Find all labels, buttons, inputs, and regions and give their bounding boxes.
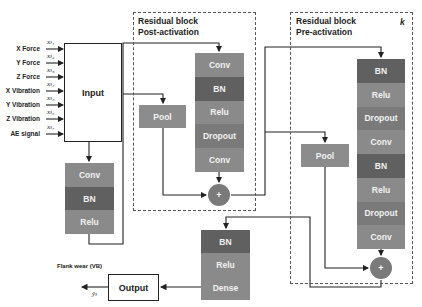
layer-conv: Conv bbox=[195, 148, 244, 172]
signal-label: X Force bbox=[0, 45, 40, 52]
signal-symbol: xₜ₄ bbox=[47, 80, 55, 88]
signal-symbol: xₜ₃ bbox=[47, 66, 55, 74]
signal-symbol: xₜ₅ bbox=[47, 94, 55, 102]
layer-conv: Conv bbox=[195, 53, 244, 77]
output-symbol: ŷₜ bbox=[92, 290, 97, 298]
head-stack: BN Relu Dense bbox=[201, 230, 250, 300]
repeat-k-label: k bbox=[400, 17, 405, 28]
layer-relu: Relu bbox=[65, 210, 114, 234]
layer-bn: BN bbox=[201, 230, 250, 253]
layer-conv: Conv bbox=[357, 130, 405, 154]
signal-symbol: xₜ₇ bbox=[47, 123, 55, 131]
signal-symbol: xₜ₁ bbox=[47, 38, 55, 46]
layer-dropout: Dropout bbox=[195, 124, 244, 148]
signal-label: Z Force bbox=[0, 73, 40, 80]
layer-relu: Relu bbox=[201, 253, 250, 276]
layer-relu: Relu bbox=[357, 178, 405, 202]
block-pre-title-2: Pre-activation bbox=[296, 27, 352, 38]
block-pre-stack: BN Relu Dropout Conv BN Relu Dropout Con… bbox=[357, 59, 405, 249]
block-post-stack: Conv BN Relu Dropout Conv bbox=[195, 53, 244, 172]
block-post-title-1: Residual block bbox=[138, 16, 198, 27]
output-box: Output bbox=[108, 274, 159, 301]
signal-label: X Vibration bbox=[0, 87, 40, 94]
input-box: Input bbox=[64, 43, 122, 142]
layer-relu: Relu bbox=[195, 101, 244, 125]
pool-pre: Pool bbox=[301, 144, 349, 167]
add-node-post: + bbox=[208, 184, 230, 206]
flank-wear-label: Flank wear (VB) bbox=[57, 263, 102, 269]
layer-bn: BN bbox=[195, 77, 244, 101]
signal-label: Z Vibration bbox=[0, 115, 40, 122]
layer-relu: Relu bbox=[357, 83, 405, 107]
layer-bn: BN bbox=[357, 154, 405, 178]
signal-label: AE signal bbox=[0, 130, 40, 137]
signal-label: Y Vibration bbox=[0, 101, 40, 108]
pool-post: Pool bbox=[139, 105, 186, 128]
layer-conv: Conv bbox=[357, 225, 405, 249]
signal-symbol: xₜ₆ bbox=[47, 108, 55, 116]
layer-bn: BN bbox=[357, 59, 405, 83]
layer-bn: BN bbox=[65, 187, 114, 211]
add-node-pre: + bbox=[370, 257, 392, 279]
signal-label: Y Force bbox=[0, 59, 40, 66]
block-post-title-2: Post-activation bbox=[138, 27, 199, 38]
layer-dense: Dense bbox=[201, 277, 250, 300]
block-pre-title-1: Residual block bbox=[296, 16, 356, 27]
layer-dropout: Dropout bbox=[357, 107, 405, 131]
signal-symbol: xₜ₂ bbox=[47, 52, 55, 60]
layer-conv: Conv bbox=[65, 163, 114, 187]
stem-stack: Conv BN Relu bbox=[65, 163, 114, 234]
layer-dropout: Dropout bbox=[357, 202, 405, 226]
